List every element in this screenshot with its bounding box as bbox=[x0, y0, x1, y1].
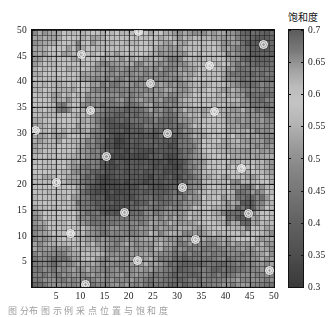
x-axis-tick bbox=[274, 283, 275, 287]
colorbar-tick-label: 0.35 bbox=[308, 250, 325, 260]
y-axis-tick-right bbox=[270, 133, 274, 134]
colorbar-tick-right bbox=[301, 158, 304, 159]
x-axis-tick-top bbox=[105, 29, 106, 33]
x-axis-tick-top bbox=[177, 29, 178, 33]
x-axis-tick bbox=[250, 283, 251, 287]
colorbar-tick-right bbox=[301, 223, 304, 224]
y-axis-tick bbox=[31, 107, 35, 108]
y-axis-tick-label: 35 bbox=[7, 102, 27, 112]
y-axis-tick-right bbox=[270, 107, 274, 108]
y-axis-tick bbox=[31, 261, 35, 262]
sample-point-marker[interactable] bbox=[120, 208, 129, 217]
y-axis-tick-right bbox=[270, 56, 274, 57]
colorbar-tick-label: 0.65 bbox=[308, 57, 325, 67]
colorbar-tick-label: 0.5 bbox=[308, 154, 320, 164]
y-axis-tick-right bbox=[270, 184, 274, 185]
x-axis-tick-label: 20 bbox=[117, 291, 141, 301]
sample-point-marker[interactable] bbox=[178, 183, 187, 192]
x-axis-tick-label: 25 bbox=[141, 291, 165, 301]
sample-point-marker[interactable] bbox=[191, 235, 200, 244]
x-axis-tick-label: 45 bbox=[238, 291, 262, 301]
sample-point-marker[interactable] bbox=[86, 106, 95, 115]
x-axis-tick-label: 35 bbox=[189, 291, 213, 301]
x-axis-tick-top bbox=[80, 29, 81, 33]
sample-point-marker[interactable] bbox=[146, 79, 155, 88]
y-axis-tick-label: 10 bbox=[7, 231, 27, 241]
y-axis-tick bbox=[31, 159, 35, 160]
y-axis-tick-label: 5 bbox=[7, 256, 27, 266]
colorbar-tick-right bbox=[301, 255, 304, 256]
x-axis-tick bbox=[201, 283, 202, 287]
x-axis-tick-label: 10 bbox=[68, 291, 92, 301]
colorbar-tick bbox=[288, 62, 291, 63]
sample-point-marker[interactable] bbox=[237, 164, 246, 173]
sample-point-marker[interactable] bbox=[102, 152, 111, 161]
colorbar-tick bbox=[288, 30, 291, 31]
sample-point-marker[interactable] bbox=[259, 40, 268, 49]
sample-point-marker[interactable] bbox=[81, 280, 90, 288]
y-axis-tick bbox=[31, 30, 35, 31]
y-axis-tick-label: 40 bbox=[7, 76, 27, 86]
colorbar-tick-label: 0.3 bbox=[308, 282, 320, 292]
colorbar-tick-label: 0.6 bbox=[308, 89, 320, 99]
x-axis-tick bbox=[80, 283, 81, 287]
sample-point-marker[interactable] bbox=[265, 266, 274, 275]
colorbar-tick-right bbox=[301, 191, 304, 192]
y-axis-tick bbox=[31, 133, 35, 134]
y-axis-tick-label: 15 bbox=[7, 205, 27, 215]
figure-container: 5045403530252015105 5101520253035404550 … bbox=[0, 0, 335, 317]
y-axis-tick bbox=[31, 56, 35, 57]
x-axis-tick bbox=[105, 283, 106, 287]
colorbar-title: 饱和度 bbox=[288, 12, 318, 24]
sample-point-marker[interactable] bbox=[66, 229, 75, 238]
sample-point-marker-layer bbox=[32, 30, 274, 287]
y-axis-tick-right bbox=[270, 159, 274, 160]
x-axis-tick-top bbox=[201, 29, 202, 33]
colorbar-tick bbox=[288, 126, 291, 127]
y-axis-tick bbox=[31, 236, 35, 237]
x-axis-tick bbox=[226, 283, 227, 287]
figure-caption: 图 分布 图 示 例 采 点 位 置 与 饱 和 度 bbox=[8, 306, 328, 317]
sample-point-marker[interactable] bbox=[134, 29, 143, 36]
colorbar-tick bbox=[288, 223, 291, 224]
x-axis-tick bbox=[56, 283, 57, 287]
x-axis-tick-label: 30 bbox=[165, 291, 189, 301]
sample-point-marker[interactable] bbox=[244, 209, 253, 218]
colorbar-tick bbox=[288, 191, 291, 192]
x-axis-tick-top bbox=[153, 29, 154, 33]
y-axis-tick-right bbox=[270, 261, 274, 262]
colorbar-tick-right bbox=[301, 287, 304, 288]
colorbar-tick-label: 0.4 bbox=[308, 218, 320, 228]
sample-point-marker[interactable] bbox=[77, 50, 86, 59]
x-axis-tick bbox=[153, 283, 154, 287]
colorbar-tick-right bbox=[301, 30, 304, 31]
x-axis-tick bbox=[177, 283, 178, 287]
colorbar-tick-label: 0.55 bbox=[308, 121, 325, 131]
colorbar-tick-right bbox=[301, 126, 304, 127]
sample-point-marker[interactable] bbox=[133, 256, 142, 265]
x-axis-tick-label: 50 bbox=[262, 291, 286, 301]
colorbar-tick bbox=[288, 158, 291, 159]
heatmap-plot-area[interactable] bbox=[31, 29, 275, 288]
sample-point-marker[interactable] bbox=[205, 61, 214, 70]
x-axis-tick-top bbox=[129, 29, 130, 33]
x-axis-tick-label: 15 bbox=[93, 291, 117, 301]
colorbar-tick-right bbox=[301, 94, 304, 95]
colorbar-tick-right bbox=[301, 62, 304, 63]
y-axis-tick bbox=[31, 81, 35, 82]
x-axis-tick-top bbox=[56, 29, 57, 33]
y-axis-tick bbox=[31, 184, 35, 185]
sample-point-marker[interactable] bbox=[163, 129, 172, 138]
y-axis-tick bbox=[31, 210, 35, 211]
x-axis-tick-top bbox=[250, 29, 251, 33]
y-axis-tick-right bbox=[270, 236, 274, 237]
sample-point-marker[interactable] bbox=[210, 107, 219, 116]
colorbar-tick bbox=[288, 94, 291, 95]
x-axis-tick-top bbox=[274, 29, 275, 33]
colorbar-tick-label: 0.45 bbox=[308, 186, 325, 196]
y-axis-tick-label: 30 bbox=[7, 128, 27, 138]
sample-point-marker[interactable] bbox=[52, 178, 61, 187]
y-axis-tick-right bbox=[270, 81, 274, 82]
y-axis-tick-label: 20 bbox=[7, 179, 27, 189]
x-axis-tick-top bbox=[226, 29, 227, 33]
